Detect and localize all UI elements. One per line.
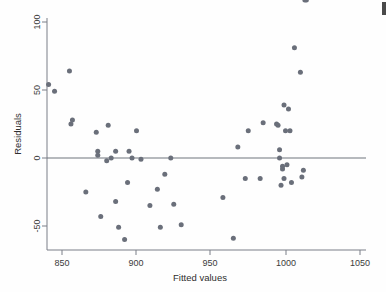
scatter-point	[46, 82, 51, 87]
scatter-point	[106, 123, 111, 128]
x-tick-label-1050: 1050	[350, 258, 370, 268]
scatter-point	[299, 175, 304, 180]
scatter-point	[70, 117, 75, 122]
scatter-point	[162, 172, 167, 177]
scatter-point	[83, 190, 88, 195]
scatter-point	[279, 183, 284, 188]
scatter-point	[298, 70, 303, 75]
residuals-vs-fitted-scatter-plot: 100 50 0 -50 Residuals 850 900 950 1000 …	[0, 0, 386, 292]
plot-background	[0, 0, 386, 292]
scatter-point	[243, 176, 248, 181]
y-tick-label-50: 50	[32, 85, 42, 95]
scatter-point	[134, 128, 139, 133]
y-tick-label-minus-50: -50	[32, 219, 42, 232]
scatter-point	[287, 128, 292, 133]
scatter-point	[277, 147, 282, 152]
scatter-point	[109, 156, 114, 161]
scatter-point	[301, 168, 306, 173]
scatter-point	[67, 68, 72, 73]
scatter-point	[98, 214, 103, 219]
scatter-point	[258, 176, 263, 181]
scatter-point	[125, 180, 130, 185]
scatter-point	[171, 202, 176, 207]
scatter-point	[292, 45, 297, 50]
y-axis-title: Residuals	[12, 113, 23, 155]
scatter-point	[282, 176, 287, 181]
scatter-point	[158, 225, 163, 230]
scatter-point	[138, 157, 143, 162]
scatter-point	[127, 149, 132, 154]
scatter-point	[282, 102, 287, 107]
x-tick-label-900: 900	[128, 258, 143, 268]
scatter-point	[280, 166, 285, 171]
scatter-point	[246, 128, 251, 133]
scatter-point	[168, 156, 173, 161]
y-tick-label-0: 0	[32, 155, 42, 160]
scatter-point	[147, 203, 152, 208]
scatter-point	[113, 149, 118, 154]
scatter-point	[52, 89, 57, 94]
x-tick-label-1000: 1000	[276, 258, 296, 268]
x-axis-title: Fitted values	[173, 272, 227, 283]
scatter-point	[95, 153, 100, 158]
x-tick-label-850: 850	[54, 258, 69, 268]
scatter-point	[235, 145, 240, 150]
scatter-point	[277, 156, 282, 161]
scatter-point	[220, 195, 225, 200]
scatter-point	[231, 236, 236, 241]
scatter-point	[261, 120, 266, 125]
scatter-point	[155, 187, 160, 192]
scatter-point	[286, 107, 291, 112]
scatter-point	[104, 158, 109, 163]
scatter-point	[113, 199, 118, 204]
scatter-point	[130, 156, 135, 161]
scatter-point	[283, 128, 288, 133]
scatter-point	[94, 130, 99, 135]
scatter-point	[289, 180, 294, 185]
scatter-point	[179, 222, 184, 227]
x-tick-label-950: 950	[202, 258, 217, 268]
y-tick-label-100: 100	[32, 14, 42, 29]
scatter-point	[276, 123, 281, 128]
scatter-point	[284, 162, 289, 167]
figure-container: 100 50 0 -50 Residuals 850 900 950 1000 …	[0, 0, 386, 292]
scan-edge-artifact	[382, 2, 386, 15]
scatter-point	[122, 237, 127, 242]
scatter-point	[116, 225, 121, 230]
